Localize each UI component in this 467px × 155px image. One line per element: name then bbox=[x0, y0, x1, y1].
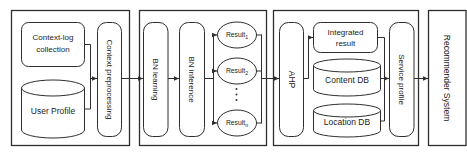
ellipsis-dot-3 bbox=[236, 99, 238, 101]
bn-inference-label: BN inference bbox=[187, 56, 196, 103]
content-db-cylinder-top bbox=[314, 59, 381, 72]
result-n-label-sub: n bbox=[245, 122, 248, 128]
result-2-label-sub: 2 bbox=[245, 70, 248, 76]
user-profile-cylinder: User Profile bbox=[22, 80, 85, 138]
location-db-label: Location DB bbox=[324, 117, 371, 127]
section-recommender-system: Recommender System bbox=[429, 11, 467, 146]
context-log-collection-label-line1: Context-log bbox=[33, 33, 74, 42]
ellipsis-dot-1 bbox=[236, 88, 238, 90]
result-n-label-base: Result bbox=[226, 119, 245, 126]
result-2-label-base: Result bbox=[226, 67, 245, 74]
diagram-canvas: Context-log collection User Profile Cont… bbox=[0, 0, 467, 155]
recommendation-pipeline-diagram: Context-log collection User Profile Cont… bbox=[0, 0, 467, 155]
integrated-result-label-line2: result bbox=[336, 39, 356, 48]
section-integration: AHP Integrated result Content DB Locatio… bbox=[274, 11, 419, 146]
result-1-label-base: Result bbox=[226, 31, 245, 38]
user-profile-label: User Profile bbox=[31, 106, 76, 116]
recommender-system-label: Recommender System bbox=[442, 35, 452, 121]
service-profile-label: Service profile bbox=[397, 54, 406, 105]
location-db-cylinder-top bbox=[314, 104, 381, 117]
result-1-label-sub: 1 bbox=[245, 34, 248, 40]
ellipsis-dot-2 bbox=[236, 94, 238, 96]
bn-learning-label: BN learning bbox=[151, 59, 160, 101]
location-db-cylinder: Location DB bbox=[314, 104, 381, 137]
context-log-collection-label-line2: collection bbox=[36, 45, 69, 54]
section-context-collection: Context-log collection User Profile Cont… bbox=[12, 11, 130, 146]
ahp-label: AHP bbox=[287, 71, 297, 89]
content-db-cylinder: Content DB bbox=[314, 59, 381, 96]
integrated-result-label-line1: Integrated bbox=[327, 28, 363, 37]
section-bn-stage: BN learning BN inference Result1 Result2… bbox=[140, 11, 267, 146]
context-preprocessing-label: Context preprocessing bbox=[105, 39, 114, 119]
content-db-label: Content DB bbox=[325, 75, 369, 85]
user-profile-cylinder-top bbox=[22, 80, 85, 96]
